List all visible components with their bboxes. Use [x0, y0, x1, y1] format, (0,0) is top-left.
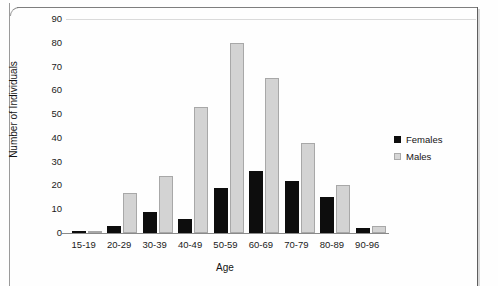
bar-group — [70, 19, 101, 233]
bar-males[interactable] — [265, 78, 279, 233]
legend-item-label: Males — [406, 152, 431, 162]
legend-item-label: Females — [406, 135, 442, 145]
bar-females[interactable] — [143, 212, 157, 233]
bar-males[interactable] — [194, 107, 208, 233]
bar-group — [318, 19, 349, 233]
y-axis-tick-labels: 0102030405060708090 — [34, 0, 62, 286]
plot-area — [66, 19, 385, 233]
bar-group — [212, 19, 243, 233]
bar-males[interactable] — [88, 231, 102, 233]
bar-group — [141, 19, 172, 233]
bar-chart: 0102030405060708090 Number of Individual… — [0, 0, 498, 286]
x-axis-tick-label: 90-96 — [345, 239, 389, 250]
y-axis-tick-label: 40 — [36, 133, 62, 143]
bar-females[interactable] — [249, 171, 263, 233]
y-axis-tick-label: 20 — [36, 180, 62, 190]
bar-females[interactable] — [320, 197, 334, 233]
bar-females[interactable] — [214, 188, 228, 233]
y-axis-tick-label: 60 — [36, 85, 62, 95]
y-axis-tick-label: 30 — [36, 157, 62, 167]
bar-males[interactable] — [301, 143, 315, 233]
gray-square-swatch — [394, 153, 401, 160]
bar-group — [283, 19, 314, 233]
y-axis-tick-label: 0 — [36, 228, 62, 238]
bar-females[interactable] — [356, 228, 370, 233]
y-axis-tick-label: 10 — [36, 204, 62, 214]
chart-baseline-axis — [62, 233, 389, 234]
chart-legend: FemalesMales — [394, 134, 442, 168]
bar-females[interactable] — [107, 226, 121, 233]
bar-group — [247, 19, 278, 233]
y-axis-tick-label: 70 — [36, 62, 62, 72]
bar-males[interactable] — [372, 226, 386, 233]
legend-item[interactable]: Males — [394, 151, 442, 162]
bar-group — [105, 19, 136, 233]
bar-group — [354, 19, 385, 233]
bar-females[interactable] — [285, 181, 299, 233]
y-axis-tick-label: 50 — [36, 109, 62, 119]
bar-females[interactable] — [178, 219, 192, 233]
bar-males[interactable] — [230, 43, 244, 233]
bar-males[interactable] — [159, 176, 173, 233]
bar-males[interactable] — [123, 193, 137, 233]
black-square-swatch — [394, 136, 401, 143]
bar-males[interactable] — [336, 185, 350, 233]
legend-item[interactable]: Females — [394, 134, 442, 145]
x-axis-title: Age — [0, 262, 450, 273]
y-axis-tick-label: 80 — [36, 38, 62, 48]
y-axis-title: Number of Individuals — [8, 45, 19, 175]
y-axis-tick-label: 90 — [36, 14, 62, 24]
bar-group — [176, 19, 207, 233]
bar-females[interactable] — [72, 231, 86, 233]
